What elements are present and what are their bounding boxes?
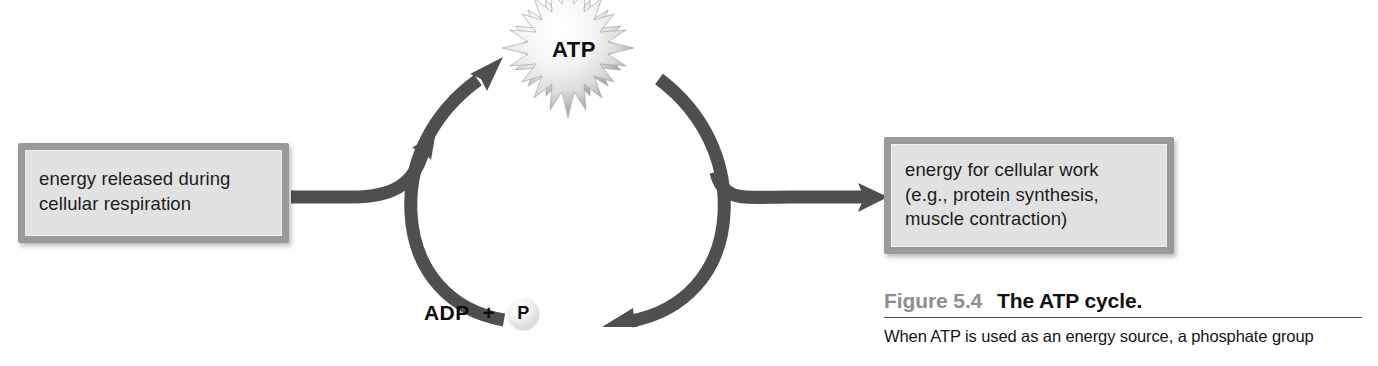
curved-arrow-down-icon: [602, 79, 724, 327]
atp-label: ATP: [484, 0, 652, 102]
adp-label: ADP: [424, 301, 470, 325]
plus-sign: +: [483, 301, 495, 325]
source-concept-box: energy released during cellular respirat…: [18, 143, 289, 243]
atp-cycle-figure: ATP energy released during cellular resp…: [0, 0, 1378, 366]
caption-body-text: When ATP is used as an energy source, a …: [884, 325, 1362, 348]
figure-number: Figure 5.4: [884, 289, 982, 312]
caption-divider: [884, 317, 1362, 318]
figure-caption-block: Figure 5.4 The ATP cycle. When ATP is us…: [884, 289, 1362, 348]
figure-title: The ATP cycle.: [997, 289, 1142, 312]
caption-heading: Figure 5.4 The ATP cycle.: [884, 289, 1362, 317]
output-arrow-right-icon: [716, 172, 888, 212]
phosphate-sphere-icon: P: [508, 298, 539, 329]
source-box-text: energy released during cellular respirat…: [39, 167, 230, 216]
target-concept-box: energy for cellular work (e.g., protein …: [884, 137, 1174, 254]
phosphate-label: P: [517, 303, 529, 324]
target-box-text: energy for cellular work (e.g., protein …: [905, 158, 1099, 232]
adp-phosphate-group: ADP + P: [424, 296, 539, 330]
atp-burst-label-wrapper: ATP: [484, 0, 652, 102]
